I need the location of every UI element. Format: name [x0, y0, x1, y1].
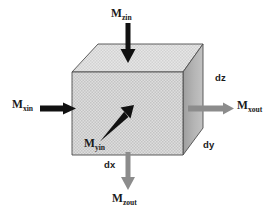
- label-m-xin-sub: xin: [23, 104, 33, 113]
- label-m-zin: Mzin: [111, 8, 132, 20]
- label-dy: dy: [203, 140, 214, 150]
- label-m-zin-sub: zin: [122, 13, 132, 22]
- m-zout-arrow: [121, 152, 135, 190]
- label-dx: dx: [104, 160, 115, 170]
- label-m-yin-sub: yin: [95, 143, 105, 152]
- cube-diagram-canvas: [0, 0, 277, 215]
- m-xin-arrow: [40, 103, 76, 115]
- label-m-zout: Mzout: [112, 193, 137, 205]
- label-m-xin-base: M: [12, 98, 23, 110]
- label-m-xout: Mxout: [237, 100, 262, 112]
- label-m-zout-base: M: [112, 192, 123, 204]
- label-m-xin: Mxin: [12, 99, 33, 111]
- label-m-yin: Myin: [84, 138, 105, 150]
- label-m-zin-base: M: [111, 7, 122, 19]
- label-m-xout-base: M: [237, 99, 248, 111]
- mass-balance-cube-diagram: Mzin Mxin Mxout Mzout Myin dz dy dx: [0, 0, 277, 215]
- label-m-zout-sub: zout: [123, 198, 137, 207]
- label-m-yin-base: M: [84, 137, 95, 149]
- label-dz: dz: [215, 73, 226, 83]
- cube-top-face: [72, 44, 203, 72]
- label-m-xout-sub: xout: [248, 105, 262, 114]
